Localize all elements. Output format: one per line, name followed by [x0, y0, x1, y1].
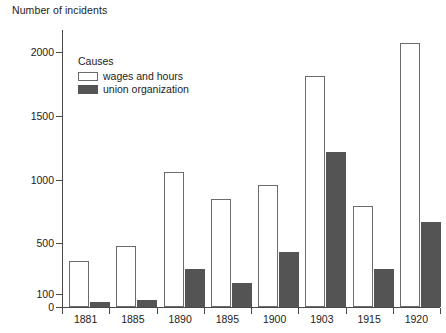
- bar-1920-wages-and-hours: [400, 43, 420, 307]
- bar-1895-wages-and-hours: [211, 199, 231, 307]
- y-tick-label-wrap-1000: 1000: [0, 180, 54, 181]
- x-tick-label-1900: 1900: [251, 314, 298, 325]
- y-tick-label-wrap-500: 500: [0, 243, 54, 244]
- y-tick-label-wrap-0: 0: [0, 307, 54, 308]
- bar-1885-union-organization: [137, 300, 157, 307]
- y-axis-line: [62, 30, 63, 308]
- bar-1903-wages-and-hours: [305, 76, 325, 307]
- y-tick-500: [56, 243, 63, 244]
- chart-legend: Causes wages and hours union organizatio…: [78, 56, 189, 97]
- y-tick-label-100: 100: [2, 289, 54, 300]
- y-tick-2000: [56, 52, 63, 53]
- legend-label-union-organization: union organization: [103, 84, 189, 95]
- x-tick-label-1881: 1881: [62, 314, 109, 325]
- bar-1920-union-organization: [421, 222, 441, 307]
- y-tick-label-1500: 1500: [2, 111, 54, 122]
- legend-label-wages-and-hours: wages and hours: [103, 71, 183, 82]
- bar-1900-wages-and-hours: [258, 185, 278, 307]
- y-tick-1000: [56, 180, 63, 181]
- x-tick-label-1890: 1890: [157, 314, 204, 325]
- bar-1915-wages-and-hours: [353, 206, 373, 307]
- x-tick-label-1903: 1903: [298, 314, 345, 325]
- bar-chart: Number of incidents 0100500100015002000 …: [0, 0, 446, 333]
- bar-1890-union-organization: [185, 269, 205, 307]
- legend-title: Causes: [78, 56, 189, 68]
- bar-1895-union-organization: [232, 283, 252, 307]
- y-tick-label-500: 500: [2, 238, 54, 249]
- x-tick-label-1895: 1895: [204, 314, 251, 325]
- y-tick-label-wrap-1500: 1500: [0, 116, 54, 117]
- y-tick-label-1000: 1000: [2, 175, 54, 186]
- bar-1890-wages-and-hours: [164, 172, 184, 307]
- legend-swatch-wages-icon: [78, 72, 98, 81]
- x-tick-label-1915: 1915: [346, 314, 393, 325]
- y-axis-title: Number of incidents: [12, 4, 107, 16]
- x-tick-label-1920: 1920: [393, 314, 440, 325]
- bar-1900-union-organization: [279, 252, 299, 307]
- y-tick-label-wrap-100: 100: [0, 294, 54, 295]
- bar-1881-union-organization: [90, 302, 110, 307]
- y-tick-1500: [56, 116, 63, 117]
- bar-1903-union-organization: [326, 152, 346, 307]
- legend-item-wages-and-hours: wages and hours: [78, 71, 189, 83]
- legend-swatch-union-icon: [78, 85, 98, 94]
- y-tick-label-wrap-2000: 2000: [0, 52, 54, 53]
- bar-1881-wages-and-hours: [69, 261, 89, 307]
- y-tick-label-0: 0: [2, 302, 54, 313]
- x-tick-label-1885: 1885: [109, 314, 156, 325]
- x-tick-8: [440, 308, 441, 314]
- bar-1885-wages-and-hours: [116, 246, 136, 307]
- y-tick-100: [56, 294, 63, 295]
- legend-item-union-organization: union organization: [78, 84, 189, 96]
- bar-1915-union-organization: [374, 269, 394, 307]
- y-tick-label-2000: 2000: [2, 47, 54, 58]
